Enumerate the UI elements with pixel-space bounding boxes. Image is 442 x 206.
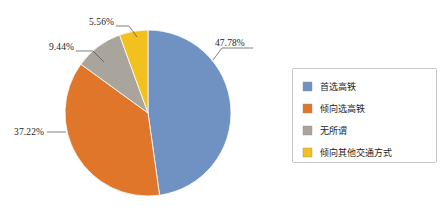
legend-swatch-无所谓 bbox=[303, 126, 312, 135]
leader-line-blue bbox=[213, 48, 253, 60]
legend-label-倾向选高铁: 倾向选高铁 bbox=[320, 103, 365, 114]
percent-label-gray: 9.44% bbox=[49, 42, 74, 52]
legend-swatch-倾向选高铁 bbox=[303, 104, 312, 113]
pie-slices bbox=[65, 30, 231, 196]
legend: 首选高铁 倾向选高铁 无所谓 倾向其他交通方式 bbox=[293, 69, 437, 163]
chart-canvas: 47.78% 37.22% 9.44% 5.56% 首选高铁 倾向选高铁 无所谓 bbox=[0, 0, 442, 206]
legend-label-首选高铁: 首选高铁 bbox=[320, 81, 356, 92]
percent-label-orange: 37.22% bbox=[14, 127, 44, 137]
legend-swatch-倾向其他交通方式 bbox=[303, 148, 312, 157]
legend-label-无所谓: 无所谓 bbox=[320, 126, 347, 136]
legend-item-首选高铁[interactable]: 首选高铁 bbox=[303, 81, 356, 92]
percent-label-yellow: 5.56% bbox=[89, 17, 114, 27]
pie-slice-首选高铁[interactable] bbox=[148, 30, 231, 195]
percent-label-blue: 47.78% bbox=[215, 38, 245, 48]
legend-label-倾向其他交通方式: 倾向其他交通方式 bbox=[320, 147, 392, 158]
legend-swatch-首选高铁 bbox=[303, 82, 312, 91]
pie-chart-figure: 47.78% 37.22% 9.44% 5.56% 首选高铁 倾向选高铁 无所谓 bbox=[0, 0, 442, 206]
legend-item-无所谓[interactable]: 无所谓 bbox=[303, 126, 347, 136]
